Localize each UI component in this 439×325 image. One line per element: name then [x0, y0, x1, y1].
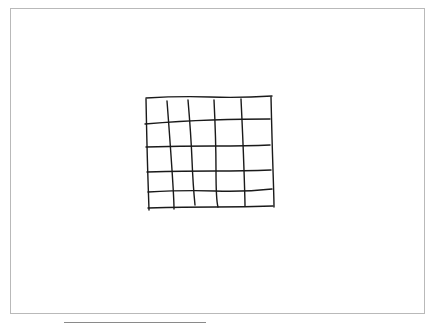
underline-divider — [64, 322, 206, 323]
drawing-canvas[interactable] — [10, 8, 425, 314]
